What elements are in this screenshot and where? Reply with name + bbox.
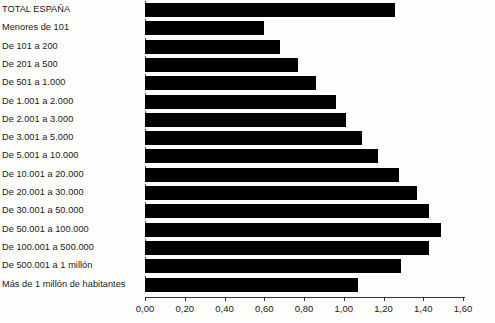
bar [145,278,358,292]
x-axis-line [145,297,465,298]
bar [145,259,401,273]
bar [145,58,298,72]
category-label: TOTAL ESPAÑA [2,4,141,14]
category-label: De 2.001 a 3.000 [2,114,141,124]
bar [145,113,346,127]
x-tick-label: 0,60 [244,303,284,315]
bar [145,3,395,17]
x-tick-mark [344,297,345,301]
category-label: Menores de 101 [2,22,141,32]
bar [145,241,429,255]
x-tick-label: 0,80 [284,303,324,315]
bar-chart: TOTAL ESPAÑAMenores de 101De 101 a 200De… [0,0,495,323]
category-label: De 3.001 a 5.000 [2,132,141,142]
bar [145,204,429,218]
category-label: De 30.001 a 50.000 [2,205,141,215]
x-tick-label: 0,20 [165,303,205,315]
bar [145,149,378,163]
axis-row-stub [145,202,146,204]
bar [145,40,280,54]
bar [145,223,441,237]
axis-row-stub [145,221,146,223]
category-label: De 500.001 a 1 millón [2,260,141,270]
x-tick-label: 0,40 [205,303,245,315]
category-label: De 5.001 a 10.000 [2,150,141,160]
axis-row-stub [145,239,146,241]
category-label: De 101 a 200 [2,41,141,51]
x-tick-mark [185,297,186,301]
category-label-column: TOTAL ESPAÑAMenores de 101De 101 a 200De… [0,0,145,297]
x-tick-label: 0,00 [125,303,165,315]
axis-row-stub [145,257,146,259]
x-tick-mark [463,297,464,301]
category-label: De 201 a 500 [2,59,141,69]
axis-row-stub [145,1,146,3]
x-tick-mark [145,297,146,301]
axis-row-stub [145,111,146,113]
category-label: De 20.001 a 30.000 [2,187,141,197]
axis-row-stub [145,147,146,149]
bar [145,131,362,145]
axis-row-stub [145,93,146,95]
axis-row-stub [145,276,146,278]
axis-row-stub [145,56,146,58]
x-tick-label: 1,00 [324,303,364,315]
category-label: De 50.001 a 100.000 [2,224,141,234]
axis-row-stub [145,74,146,76]
bar [145,76,316,90]
x-tick-label: 1,20 [364,303,404,315]
axis-row-stub [145,166,146,168]
x-tick-label: 1,60 [443,303,483,315]
category-label: De 501 a 1.000 [2,77,141,87]
x-tick-mark [384,297,385,301]
x-tick-mark [423,297,424,301]
bar [145,186,417,200]
x-tick-mark [225,297,226,301]
category-label: De 10.001 a 20.000 [2,169,141,179]
axis-row-stub [145,184,146,186]
bar [145,21,264,35]
x-tick-mark [304,297,305,301]
axis-row-stub [145,19,146,21]
plot-area [145,0,495,297]
x-tick-mark [264,297,265,301]
bar [145,95,336,109]
category-label: De 100.001 a 500.000 [2,242,141,252]
bar [145,168,399,182]
axis-row-stub [145,38,146,40]
axis-row-stub [145,129,146,131]
category-label: Más de 1 millón de habitantes [2,279,141,289]
category-label: De 1.001 a 2.000 [2,96,141,106]
x-tick-label: 1,40 [403,303,443,315]
